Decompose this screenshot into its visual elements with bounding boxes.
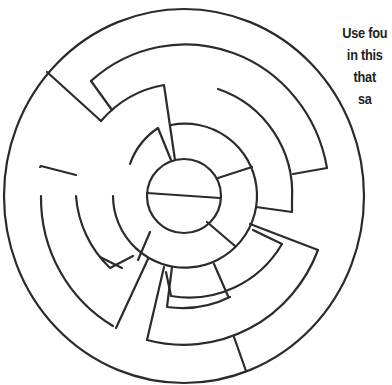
wall-bottom-mid bbox=[147, 267, 164, 340]
ring2-arc-upper bbox=[130, 128, 171, 164]
instruction-line-1: Use fou bbox=[318, 22, 392, 44]
ring2-wall-lower-right bbox=[207, 222, 235, 246]
ring4-arc-top bbox=[91, 44, 327, 168]
ring3-arc-left bbox=[76, 196, 133, 268]
wall-bottom-left bbox=[116, 259, 148, 328]
ring4-arc-bottom bbox=[147, 224, 318, 345]
ring4-wall-right bbox=[293, 168, 327, 174]
ring2-wall-right bbox=[218, 167, 252, 178]
instruction-line-4: sa bbox=[318, 88, 392, 110]
instructions-text: Use fou in this that sa bbox=[318, 22, 392, 110]
center-divider bbox=[147, 193, 220, 198]
instruction-line-2: in this bbox=[318, 44, 392, 66]
ring3-bracket-ul bbox=[91, 81, 112, 110]
ring2-wall-bottom2 bbox=[214, 264, 228, 296]
instruction-line-3: that bbox=[318, 66, 392, 88]
ring3-arc-right bbox=[218, 89, 292, 212]
ring2-stub bbox=[167, 267, 230, 308]
ring3-wall-left bbox=[40, 166, 76, 175]
wall-bottom-outer bbox=[234, 337, 246, 371]
